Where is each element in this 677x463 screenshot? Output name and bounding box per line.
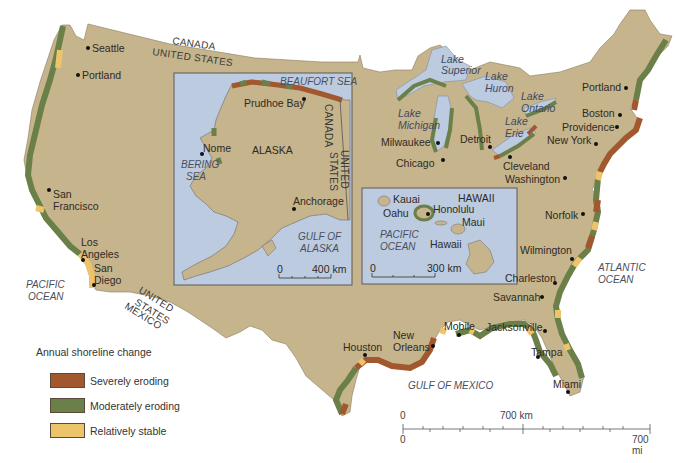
scale-bar: 0 700 km 0 700 mi: [400, 410, 660, 450]
label-alaska-states: STATES: [328, 152, 339, 191]
label-charleston: Charleston: [505, 272, 556, 284]
label-beaufort-sea: BEAUFORT SEA: [280, 76, 357, 87]
label-lake-michigan-2: Michigan: [398, 119, 440, 131]
label-lake-ontario-1: Lake: [521, 90, 544, 102]
label-boston: Boston: [582, 107, 615, 119]
label-lake-michigan-1: Lake: [398, 107, 421, 119]
label-hawaii-island: Hawaii: [430, 238, 462, 250]
label-portland-or: Portland: [82, 69, 121, 81]
label-lake-huron-1: Lake: [485, 70, 508, 82]
label-nome: Nome: [203, 142, 231, 154]
label-san-francisco-1: San: [53, 188, 72, 200]
label-wilmington: Wilmington: [520, 244, 572, 256]
label-chicago: Chicago: [396, 157, 435, 169]
label-lake-huron-2: Huron: [485, 82, 514, 94]
label-pacific-ocean-2: OCEAN: [28, 291, 64, 302]
label-san-diego-2: Diego: [94, 274, 122, 286]
hawaii-scale-label: 300 km: [427, 262, 462, 274]
label-tampa: Tampa: [531, 346, 563, 358]
label-kauai: Kauai: [393, 193, 420, 205]
label-prudhoe-bay: Prudhoe Bay: [244, 97, 305, 109]
label-gulf-of-alaska-1: GULF OF: [298, 231, 342, 242]
label-portland-me: Portland: [582, 81, 621, 93]
label-lake-superior-2: Superior: [441, 64, 481, 76]
label-atlantic-ocean-2: OCEAN: [598, 274, 634, 285]
legend-swatch-severe: [50, 373, 85, 388]
label-alaska-united: UNITED: [339, 150, 350, 189]
label-lake-erie-1: Lake: [505, 115, 528, 127]
scale-km-zero: 0: [400, 410, 406, 421]
west-coast-stable-sf: [36, 208, 44, 210]
legend-item-relatively-stable: Relatively stable: [36, 418, 236, 443]
label-hawaii-pacific-1: PACIFIC: [380, 229, 419, 240]
legend-label: Severely eroding: [90, 375, 169, 387]
label-houston: Houston: [343, 341, 382, 353]
scale-bar-ruler: [400, 422, 660, 436]
legend-swatch-stable: [50, 423, 85, 438]
alaska-scale-label: 400 km: [312, 263, 347, 275]
label-detroit: Detroit: [460, 133, 491, 145]
label-jacksonville: Jacksonville: [486, 321, 543, 333]
label-los-angeles-1: Los: [81, 236, 98, 248]
label-gulf-of-alaska-2: ALASKA: [299, 243, 339, 254]
label-mobile: Mobile: [444, 320, 475, 332]
label-lake-ontario-2: Ontario: [521, 102, 556, 114]
label-milwaukee: Milwaukee: [381, 136, 431, 148]
label-savannah: Savannah: [493, 291, 540, 303]
label-bering-sea-1: BERING: [181, 159, 220, 170]
label-new-orleans-2: Orleans: [393, 341, 430, 353]
legend: Annual shoreline change Severely eroding…: [36, 346, 236, 443]
label-miami: Miami: [553, 378, 581, 390]
label-los-angeles-2: Angeles: [81, 248, 119, 260]
scale-mi-zero: 0: [400, 434, 406, 445]
label-gulf-of-mexico: GULF OF MEXICO: [408, 380, 493, 391]
kauai-island: [378, 196, 390, 206]
label-alaska: ALASKA: [252, 144, 293, 156]
oahu-island: [415, 206, 433, 220]
label-cleveland: Cleveland: [503, 160, 550, 172]
label-norfolk: Norfolk: [545, 209, 579, 221]
label-new-orleans-1: New: [393, 329, 414, 341]
molokai-island: [435, 221, 447, 225]
label-bering-sea-2: SEA: [186, 171, 206, 182]
label-honolulu: Honolulu: [433, 203, 475, 215]
legend-label: Relatively stable: [90, 425, 166, 437]
label-lake-erie-2: Erie: [505, 127, 524, 139]
label-atlantic-ocean-1: ATLANTIC: [597, 262, 646, 273]
label-new-york: New York: [547, 134, 592, 146]
scale-mi-label: 700 mi: [632, 434, 660, 456]
label-hawaii-pacific-2: OCEAN: [380, 241, 416, 252]
legend-item-moderately-eroding: Moderately eroding: [36, 393, 236, 418]
label-washington: Washington: [505, 173, 560, 185]
legend-swatch-moderate: [50, 398, 85, 413]
label-providence: Providence: [562, 121, 615, 133]
label-san-francisco-2: Francisco: [53, 200, 99, 212]
legend-item-severely-eroding: Severely eroding: [36, 368, 236, 393]
alaska-scale-zero: 0: [277, 263, 283, 275]
label-alaska-canada: CANADA: [323, 104, 334, 148]
west-coast-stable-wa: [58, 50, 60, 68]
label-pacific-ocean-1: PACIFIC: [26, 279, 65, 290]
label-san-diego-1: San: [94, 262, 113, 274]
legend-title: Annual shoreline change: [36, 346, 236, 358]
label-anchorage: Anchorage: [293, 195, 344, 207]
scale-km-label: 700 km: [500, 410, 533, 421]
hawaii-scale-zero: 0: [370, 262, 376, 274]
label-seattle: Seattle: [92, 42, 125, 54]
label-oahu: Oahu: [383, 207, 409, 219]
label-maui: Maui: [462, 216, 485, 228]
legend-label: Moderately eroding: [90, 400, 180, 412]
